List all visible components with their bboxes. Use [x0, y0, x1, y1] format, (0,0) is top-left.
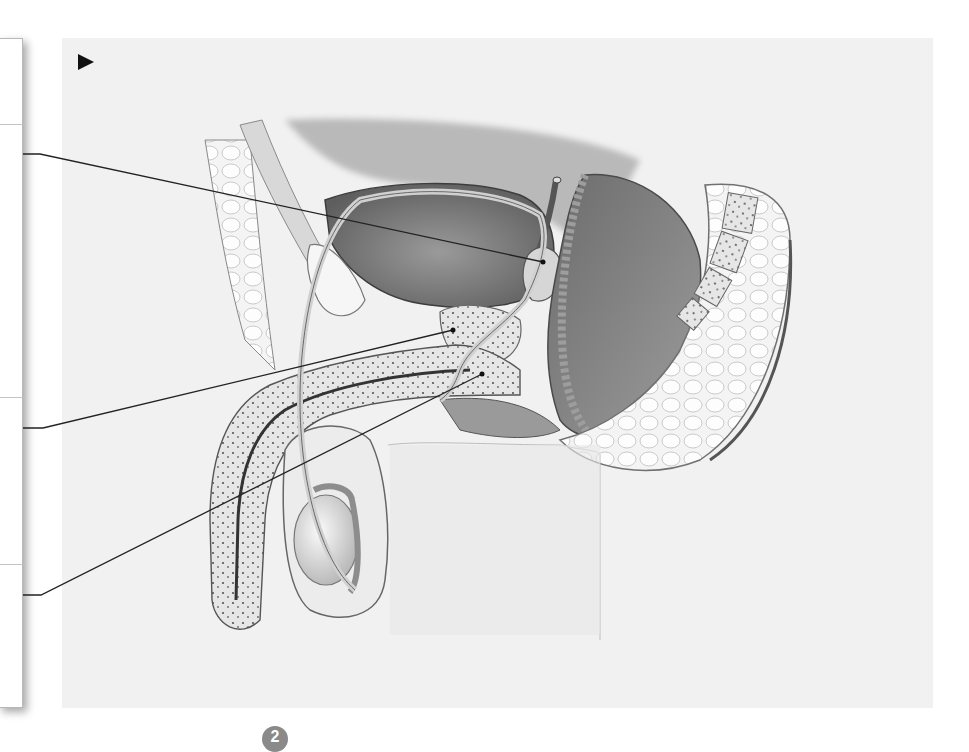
thigh: [390, 445, 600, 635]
step-badge: 2: [262, 726, 288, 752]
abdominal-wall: [205, 120, 345, 370]
ureter-opening: [553, 177, 561, 183]
perineal-muscles: [440, 398, 560, 437]
